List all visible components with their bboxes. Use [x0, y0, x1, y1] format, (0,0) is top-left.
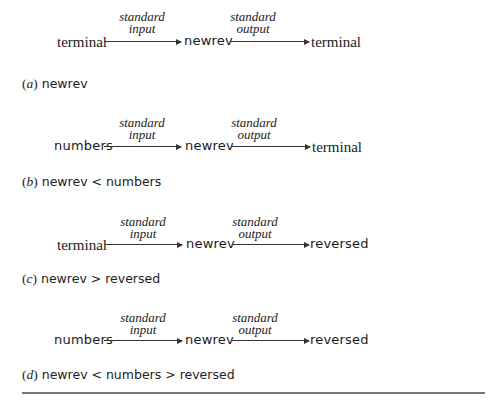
- program-node: newrev: [185, 138, 234, 154]
- caption-letter: d: [27, 367, 34, 382]
- stdin-label-line2: input: [103, 324, 183, 336]
- target-node: terminal: [312, 139, 362, 155]
- input-arrow: [104, 146, 181, 147]
- output-arrow: [232, 340, 309, 341]
- source-node: terminal: [57, 237, 107, 253]
- target-node: reversed: [310, 236, 369, 252]
- caption-command: newrev < numbers > reversed: [42, 367, 235, 382]
- program-node: newrev: [185, 332, 234, 348]
- stdin-label-line2: input: [102, 129, 182, 141]
- caption-letter: b: [27, 174, 34, 189]
- input-arrow: [104, 340, 182, 341]
- caption-letter: c: [27, 271, 33, 286]
- caption-tag: (d): [22, 367, 38, 382]
- caption-tag: (c): [22, 271, 37, 286]
- program-node: newrev: [186, 236, 235, 252]
- caption: (c) newrev > reversed: [22, 272, 160, 286]
- caption: (b) newrev < numbers: [22, 175, 161, 189]
- output-arrow: [231, 146, 310, 147]
- diagram-d: standard input standard output numbers n…: [0, 0, 494, 100]
- caption-command: newrev > reversed: [41, 271, 160, 286]
- horizontal-rule: [22, 392, 485, 394]
- caption: (d) newrev < numbers > reversed: [22, 368, 235, 382]
- stdin-label: standard input: [103, 216, 183, 240]
- stdin-label-line2: input: [103, 228, 183, 240]
- input-arrow: [105, 244, 182, 245]
- output-arrow: [232, 244, 309, 245]
- stdin-label: standard input: [103, 312, 183, 336]
- stdin-label: standard input: [102, 117, 182, 141]
- caption-command: newrev < numbers: [42, 174, 162, 189]
- target-node: reversed: [310, 332, 369, 348]
- caption-tag: (b): [22, 174, 38, 189]
